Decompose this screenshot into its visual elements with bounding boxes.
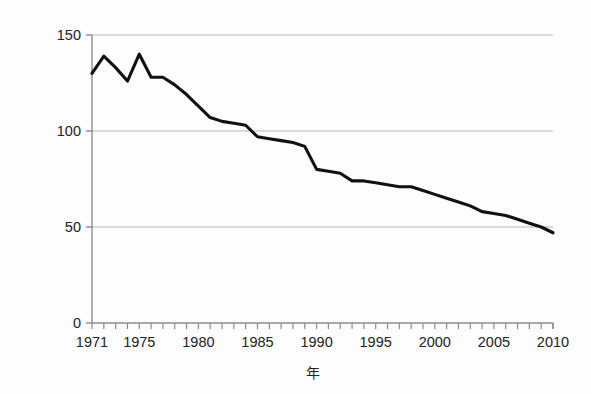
- x-tick-label: 2010: [537, 334, 569, 350]
- y-tick-label: 150: [57, 27, 81, 43]
- x-tick-labels-group: 197119751980198519901995200020052010: [76, 334, 569, 350]
- x-tick-label: 1995: [360, 334, 392, 350]
- x-tick-label: 1990: [300, 334, 332, 350]
- x-tick-label: 1971: [76, 334, 108, 350]
- x-tick-label: 1980: [182, 334, 214, 350]
- y-tick-label: 50: [65, 219, 81, 235]
- x-tick-label: 1975: [123, 334, 155, 350]
- line-chart: 050100150 197119751980198519901995200020…: [0, 0, 591, 394]
- chart-container: 乳児死亡率（‰） 050100150 197119751980198519901…: [0, 0, 591, 394]
- y-tick-label: 0: [73, 315, 81, 331]
- y-tick-label: 100: [57, 123, 81, 139]
- x-tick-label: 2000: [419, 334, 451, 350]
- x-tick-label: 1985: [241, 334, 273, 350]
- x-tick-label: 2005: [478, 334, 510, 350]
- x-axis-title: 年: [306, 365, 320, 381]
